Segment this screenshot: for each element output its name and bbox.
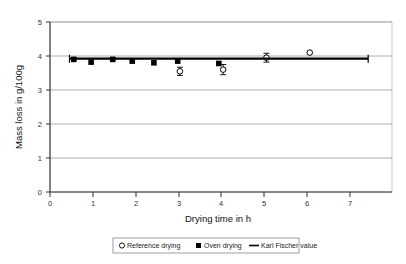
legend-label-oven-drying: Oven drying [204, 242, 242, 250]
y-tick-label-2: 2 [38, 120, 42, 129]
legend-label-karl-fischer-value: Karl Fischer value [261, 242, 317, 249]
x-tick-label-6: 6 [305, 199, 309, 208]
legend-label-reference-drying: Reference drying [127, 242, 180, 250]
y-axis-title: Mass loss in g/100g [13, 65, 24, 149]
data-point-filled-square [216, 61, 222, 67]
x-axis-title: Drying time in h [185, 213, 251, 224]
data-point-filled-square [151, 60, 157, 66]
chart-legend: Reference drying Oven drying Karl Fische… [113, 238, 317, 253]
x-tick-label-5: 5 [262, 199, 266, 208]
mass-loss-scatter-chart: 5 4 3 2 1 0 0 1 2 3 4 5 6 7 [0, 0, 406, 264]
data-point-open-circle [307, 50, 313, 56]
x-tick-label-3: 3 [177, 199, 181, 208]
y-tick-label-4: 4 [38, 52, 42, 61]
y-tick-label-3: 3 [38, 86, 42, 95]
y-tick-label-5: 5 [38, 18, 42, 27]
y-tick-label-1: 1 [38, 154, 42, 163]
data-point-open-circle [220, 67, 226, 73]
x-tick-label-0: 0 [48, 199, 52, 208]
legend-filled-square-icon [196, 243, 201, 248]
x-tick-label-1: 1 [91, 199, 95, 208]
chart-background [0, 0, 406, 264]
x-tick-label-2: 2 [134, 199, 138, 208]
x-tick-label-4: 4 [219, 199, 223, 208]
chart-figure: 5 4 3 2 1 0 0 1 2 3 4 5 6 7 [0, 0, 406, 264]
y-tick-label-0: 0 [38, 188, 42, 197]
x-tick-label-7: 7 [348, 199, 352, 208]
data-point-open-circle [177, 69, 183, 75]
data-point-filled-square [88, 59, 94, 65]
